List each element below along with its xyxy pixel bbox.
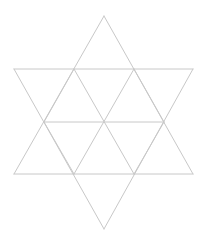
- triangle-grid: [14, 16, 193, 229]
- inner-diagonal-3: [44, 69, 74, 122]
- inner-diagonal-4: [134, 69, 164, 122]
- inner-diagonal-6: [134, 122, 164, 174]
- inner-diagonal-5: [44, 122, 74, 174]
- hexagram-diagram: [0, 0, 205, 246]
